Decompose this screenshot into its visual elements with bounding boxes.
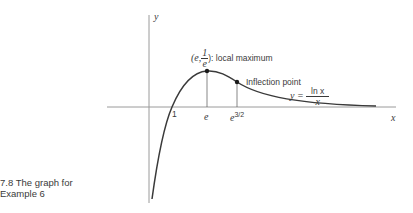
- figure-caption: 7.8 The graph for Example 6: [0, 177, 73, 199]
- tick-label-e: e: [204, 112, 208, 122]
- equation-label: y = ln xx: [290, 87, 329, 107]
- curve-lnx-over-x: [152, 71, 376, 199]
- x-axis-label: x: [391, 113, 395, 123]
- local-max-point: [205, 69, 209, 73]
- tick-label-e-three-halves: e3/2: [230, 111, 244, 123]
- tick-label-1: 1: [172, 110, 177, 119]
- local-max-label: (e,1e): local maximum: [191, 48, 273, 69]
- inflection-point: [235, 80, 239, 84]
- inflection-label: Inflection point: [246, 78, 301, 87]
- y-axis-label: y: [154, 12, 158, 22]
